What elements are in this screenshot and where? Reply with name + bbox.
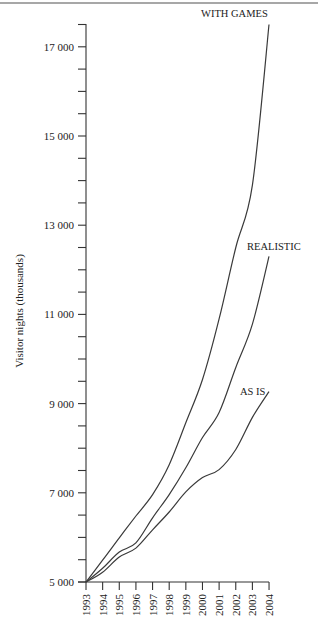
x-tick-label: 2000 [196, 594, 208, 617]
y-tick-label: 7 000 [49, 487, 74, 499]
label-realistic: REALISTIC [247, 241, 301, 252]
y-axis: 5 0007 0009 00011 00013 00015 00017 000 [44, 24, 86, 588]
x-tick-label: 1999 [180, 594, 192, 617]
x-tick-label: 1993 [80, 594, 92, 617]
y-tick-label: 9 000 [49, 398, 74, 410]
y-tick-label: 13 000 [44, 219, 75, 231]
line-chart: 5 0007 0009 00011 00013 00015 00017 000 … [0, 0, 318, 634]
x-axis: 1993199419951996199719981999200020012002… [78, 582, 275, 616]
y-tick-label: 17 000 [44, 41, 75, 53]
line-realistic [86, 256, 269, 582]
x-tick-label: 1994 [97, 594, 109, 617]
line-with-games [86, 25, 269, 583]
y-tick-label: 11 000 [44, 308, 74, 320]
x-tick-label: 1995 [113, 594, 125, 617]
y-axis-title: Visitor nights (thousands) [13, 254, 26, 368]
x-tick-label: 2001 [213, 594, 225, 616]
x-tick-label: 1996 [130, 594, 142, 617]
y-tick-label: 15 000 [44, 130, 75, 142]
label-as-is: AS IS [240, 386, 266, 397]
x-tick-label: 2002 [230, 594, 242, 616]
line-as-is [86, 392, 269, 582]
y-tick-label: 5 000 [49, 576, 74, 588]
x-tick-label: 2003 [246, 594, 258, 617]
label-with-games: WITH GAMES [201, 8, 268, 19]
x-tick-label: 2004 [263, 594, 275, 617]
x-tick-label: 1998 [163, 594, 175, 617]
series-lines [86, 25, 269, 583]
x-tick-label: 1997 [147, 594, 159, 617]
